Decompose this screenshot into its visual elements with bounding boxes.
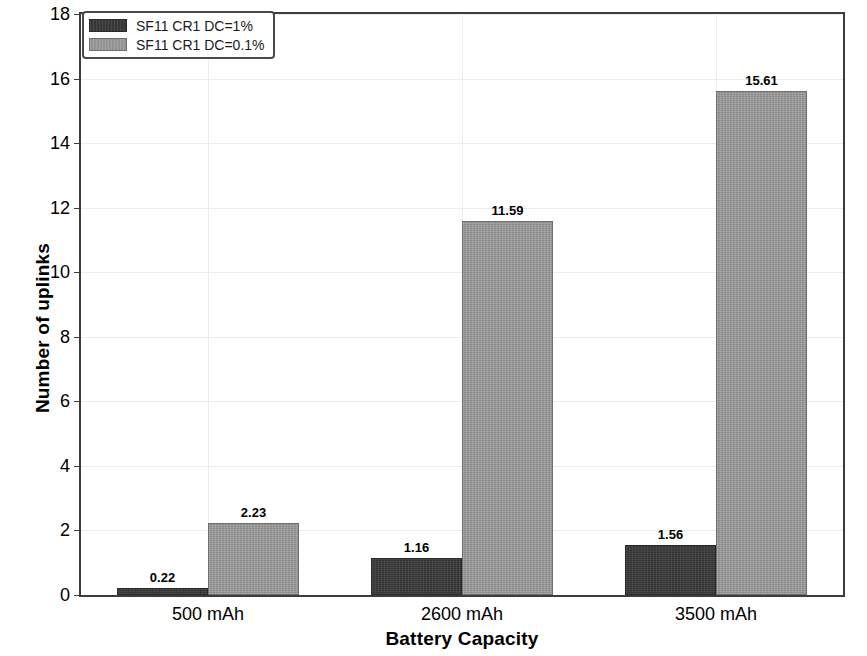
y-axis-tick-label: 16 — [50, 68, 70, 89]
x-axis-title: Battery Capacity — [79, 628, 845, 650]
bar: 0.22 — [117, 588, 208, 595]
y-axis-tick-label: 2 — [60, 520, 70, 541]
y-axis-tick-label: 8 — [60, 326, 70, 347]
y-axis-tick-mark — [74, 14, 81, 15]
y-axis-tick-mark — [74, 466, 81, 467]
y-axis-tick-label: 14 — [50, 133, 70, 154]
y-axis-tick-mark — [74, 401, 81, 402]
bar: 2.23 — [208, 523, 299, 595]
bar-value-label: 1.56 — [658, 527, 683, 542]
y-axis-tick-mark — [74, 337, 81, 338]
bar-value-label: 2.23 — [241, 505, 266, 520]
bar-chart-figure: Number of uplinks 0246810121416180.222.2… — [0, 0, 867, 656]
bar: 1.16 — [371, 558, 462, 595]
x-axis-category-label: 500 mAh — [172, 604, 244, 625]
legend-swatch-icon — [89, 19, 127, 32]
bar-value-label: 1.16 — [404, 540, 429, 555]
legend-item-label: SF11 CR1 DC=1% — [136, 18, 253, 34]
bar-value-label: 0.22 — [150, 570, 175, 585]
y-axis-tick-label: 10 — [50, 262, 70, 283]
y-axis-tick-mark — [74, 143, 81, 144]
plot-inner: 0246810121416180.222.231.1611.591.5615.6… — [81, 14, 843, 595]
y-axis-tick-mark — [74, 79, 81, 80]
legend-item: SF11 CR1 DC=0.1% — [89, 36, 265, 53]
bar-value-label: 11.59 — [492, 203, 524, 218]
legend-item: SF11 CR1 DC=1% — [89, 17, 265, 34]
legend-item-label: SF11 CR1 DC=0.1% — [136, 37, 265, 53]
chart-legend: SF11 CR1 DC=1%SF11 CR1 DC=0.1% — [82, 11, 275, 59]
bar-value-label: 15.61 — [745, 73, 778, 88]
plot-area: 0246810121416180.222.231.1611.591.5615.6… — [79, 12, 845, 597]
y-axis-tick-mark — [74, 595, 81, 596]
y-axis-tick-label: 18 — [50, 4, 70, 25]
x-axis-category-label: 3500 mAh — [675, 604, 757, 625]
y-axis-tick-label: 12 — [50, 197, 70, 218]
bar: 11.59 — [462, 221, 553, 595]
bar: 15.61 — [716, 91, 807, 595]
y-axis-tick-label: 0 — [60, 585, 70, 606]
legend-swatch-icon — [89, 38, 127, 51]
gridline-vertical — [208, 14, 209, 595]
y-axis-title: Number of uplinks — [28, 0, 58, 656]
y-axis-tick-label: 6 — [60, 391, 70, 412]
y-axis-tick-mark — [74, 208, 81, 209]
x-axis-category-label: 2600 mAh — [421, 604, 503, 625]
bar: 1.56 — [625, 545, 716, 595]
y-axis-tick-label: 4 — [60, 455, 70, 476]
y-axis-tick-mark — [74, 530, 81, 531]
y-axis-tick-mark — [74, 272, 81, 273]
